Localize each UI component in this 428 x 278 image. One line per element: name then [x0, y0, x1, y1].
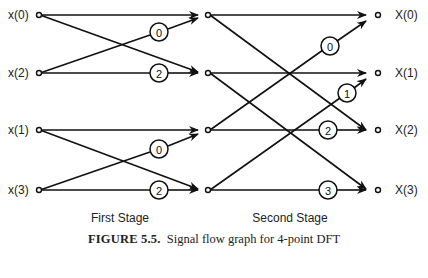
- twiddle-label: 0: [156, 27, 162, 39]
- caption-text: Signal flow graph for 4-point DFT: [167, 232, 340, 246]
- middle-node: [206, 188, 211, 193]
- input-node: [37, 188, 42, 193]
- figure-caption: FIGURE 5.5. Signal flow graph for 4-poin…: [0, 232, 428, 247]
- edge: [168, 18, 198, 29]
- stage-label: Second Stage: [252, 211, 328, 225]
- twiddle-label: 2: [325, 125, 331, 137]
- output-node: [376, 128, 381, 133]
- middle-node: [206, 71, 211, 76]
- input-label: x(3): [8, 183, 29, 197]
- twiddle-label: 1: [344, 88, 350, 100]
- edge: [40, 130, 198, 189]
- output-node: [376, 188, 381, 193]
- edge: [210, 98, 340, 190]
- twiddle-label: 0: [327, 41, 333, 53]
- edge: [337, 21, 366, 41]
- input-node: [37, 128, 42, 133]
- caption-label: FIGURE 5.5.: [88, 232, 161, 246]
- input-node: [37, 13, 42, 18]
- output-label: X(1): [395, 66, 418, 80]
- output-label: X(2): [395, 123, 418, 137]
- input-node: [37, 71, 42, 76]
- output-node: [376, 71, 381, 76]
- twiddle-label: 3: [325, 185, 331, 197]
- edge: [210, 50, 323, 130]
- middle-node: [206, 13, 211, 18]
- output-label: X(0): [395, 8, 418, 22]
- edge: [40, 35, 150, 73]
- twiddle-label: 0: [156, 144, 162, 156]
- middle-node: [206, 128, 211, 133]
- edge: [40, 15, 198, 72]
- edge: [168, 134, 198, 146]
- edge: [354, 79, 366, 88]
- stage-label: First Stage: [91, 211, 149, 225]
- twiddle-label: 2: [156, 68, 162, 80]
- twiddle-label: 2: [156, 185, 162, 197]
- output-node: [376, 13, 381, 18]
- edge: [40, 152, 150, 190]
- input-label: x(2): [8, 66, 29, 80]
- input-label: x(1): [8, 123, 29, 137]
- output-label: X(3): [395, 183, 418, 197]
- input-label: x(0): [8, 8, 29, 22]
